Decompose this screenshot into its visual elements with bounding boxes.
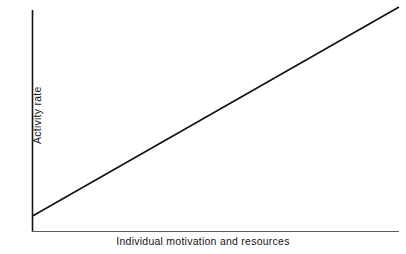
chart-figure: Activity rate Individual motivation and …	[0, 0, 406, 254]
chart-plot-area	[0, 0, 406, 254]
x-axis-label: Individual motivation and resources	[0, 236, 406, 247]
y-axis-label-container: Activity rate	[0, 0, 32, 231]
trend-line-series-1	[33, 7, 399, 216]
y-axis-label: Activity rate	[32, 87, 43, 145]
